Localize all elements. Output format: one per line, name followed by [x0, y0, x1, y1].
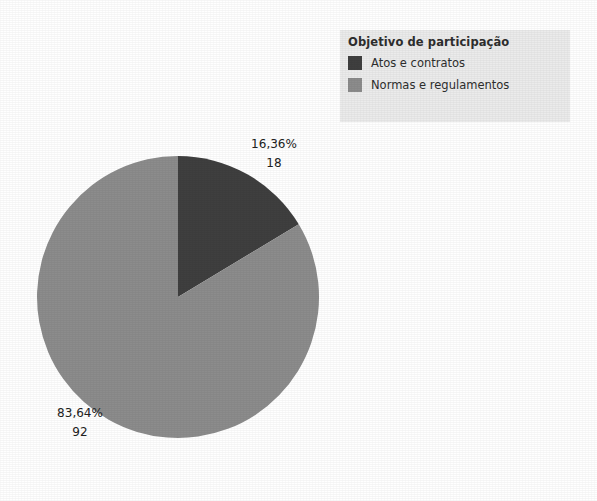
legend-item-label: Atos e contratos: [371, 56, 465, 70]
legend-swatch-icon: [348, 78, 362, 92]
pie-chart-figure: 16,36% 18 83,64% 92 Objetivo de particip…: [0, 0, 597, 501]
pie-label-value: 92: [34, 423, 126, 442]
legend: Objetivo de participação Atos e contrato…: [340, 30, 570, 122]
pie-label-percent: 83,64%: [34, 404, 126, 423]
legend-item-label: Normas e regulamentos: [371, 78, 509, 92]
pie-slices: [37, 156, 319, 438]
pie-label-value: 18: [228, 154, 320, 173]
legend-item-normas-e-regulamentos[interactable]: Normas e regulamentos: [348, 78, 509, 92]
pie-label-normas-e-regulamentos: 83,64% 92: [34, 404, 126, 441]
legend-title: Objetivo de participação: [348, 35, 509, 49]
pie-label-percent: 16,36%: [228, 135, 320, 154]
legend-swatch-icon: [348, 56, 362, 70]
pie-label-atos-e-contratos: 16,36% 18: [228, 135, 320, 172]
legend-item-atos-e-contratos[interactable]: Atos e contratos: [348, 56, 465, 70]
